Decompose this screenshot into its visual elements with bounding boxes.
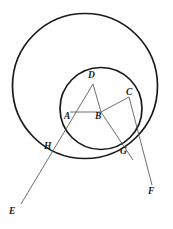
segment-c-to-b (101, 97, 129, 112)
point-label-a: A (64, 112, 70, 122)
inner-circle (60, 68, 142, 150)
point-label-c: C (126, 88, 132, 98)
point-label-f: F (148, 187, 154, 197)
point-label-d: D (88, 71, 95, 81)
segment-d-to-b (93, 84, 101, 112)
point-label-h: H (44, 142, 51, 152)
point-label-g: G (120, 147, 127, 157)
point-label-e: E (9, 207, 15, 217)
geometry-figure: D C A B H G F E (0, 0, 173, 229)
point-label-b: B (95, 112, 101, 122)
segment-b-to-g (101, 112, 133, 160)
